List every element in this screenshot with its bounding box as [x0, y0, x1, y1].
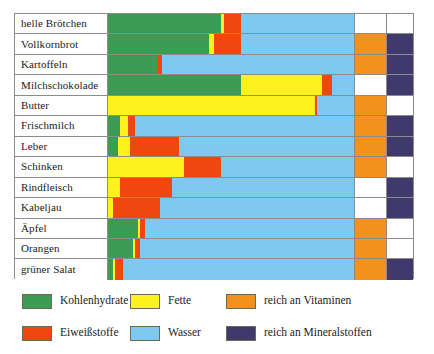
vitamin-flag-cell — [355, 55, 387, 74]
chart-row: Rindfleisch — [15, 178, 413, 198]
row-label: Butter — [15, 96, 108, 115]
bar-segment-kohlenhydrate — [108, 239, 133, 258]
row-label: Vollkornbrot — [15, 34, 108, 53]
legend-swatch-fette — [130, 294, 160, 309]
bar-segment-wasser — [241, 14, 354, 33]
bar-segment-wasser — [135, 116, 354, 135]
mineral-flag-cell — [387, 178, 413, 197]
row-label: Kabeljau — [15, 198, 108, 217]
row-label: Leber — [15, 137, 108, 156]
chart-row: Schinken — [15, 157, 413, 177]
stacked-bar — [108, 116, 355, 135]
bar-segment-fette — [108, 96, 315, 115]
mineral-flag-cell — [387, 55, 413, 74]
row-label: grüner Salat — [15, 259, 108, 279]
row-bars — [108, 239, 413, 258]
stacked-bar — [108, 137, 355, 156]
vitamin-flag-cell — [355, 239, 387, 258]
bar-segment-wasser — [241, 34, 354, 53]
vitamin-flag-cell — [355, 219, 387, 238]
row-bars — [108, 259, 413, 279]
vitamin-flag-cell — [355, 198, 387, 217]
bar-segment-fette — [241, 75, 322, 94]
legend-row-2: Eiweißstoffe Wasser reich an Mineralstof… — [14, 321, 420, 345]
legend-item-fette: Fette — [130, 289, 191, 313]
vitamin-flag-cell — [355, 96, 387, 115]
bar-segment-wasser — [160, 198, 354, 217]
bar-segment-kohlenhydrate — [108, 55, 157, 74]
bar-segment-fette — [118, 137, 130, 156]
chart-legend: Kohlenhydrate Fette reich an Vitaminen E… — [14, 289, 420, 349]
bar-segment-kohlenhydrate — [108, 14, 221, 33]
stacked-bar — [108, 14, 355, 33]
chart-plot-area: helle BrötchenVollkornbrotKartoffelnMilc… — [14, 13, 414, 279]
mineral-flag-cell — [387, 75, 413, 94]
bar-segment-eiweissstoffe — [224, 14, 241, 33]
mineral-flag-cell — [387, 198, 413, 217]
bar-segment-wasser — [145, 219, 354, 238]
bar-segment-wasser — [140, 239, 354, 258]
vitamin-flag-cell — [355, 14, 387, 33]
bar-segment-wasser — [123, 259, 354, 279]
bar-segment-wasser — [221, 157, 354, 176]
bar-segment-eiweissstoffe — [128, 116, 135, 135]
row-bars — [108, 137, 413, 156]
chart-row: Butter — [15, 96, 413, 116]
vitamin-flag-cell — [355, 178, 387, 197]
mineral-flag-cell — [387, 157, 413, 176]
stacked-bar — [108, 178, 355, 197]
legend-label-eiweissstoffe: Eiweißstoffe — [60, 327, 119, 339]
row-bars — [108, 219, 413, 238]
bar-segment-eiweissstoffe — [113, 198, 160, 217]
mineral-flag-cell — [387, 14, 413, 33]
bar-segment-eiweissstoffe — [115, 259, 122, 279]
vitamin-flag-cell — [355, 116, 387, 135]
stacked-bar — [108, 55, 355, 74]
row-label: Schinken — [15, 157, 108, 176]
chart-row: Kabeljau — [15, 198, 413, 218]
row-bars — [108, 96, 413, 115]
legend-swatch-kohlenhydrate — [22, 294, 52, 309]
row-bars — [108, 14, 413, 33]
vitamin-flag-cell — [355, 259, 387, 279]
row-bars — [108, 198, 413, 217]
bar-segment-kohlenhydrate — [108, 116, 120, 135]
row-label: Rindfleisch — [15, 178, 108, 197]
bar-segment-kohlenhydrate — [108, 34, 209, 53]
legend-item-eiweissstoffe: Eiweißstoffe — [22, 321, 119, 345]
bar-segment-eiweissstoffe — [120, 178, 172, 197]
row-label: Orangen — [15, 239, 108, 258]
mineral-flag-cell — [387, 259, 413, 279]
mineral-flag-cell — [387, 219, 413, 238]
bar-segment-wasser — [332, 75, 354, 94]
vitamin-flag-cell — [355, 157, 387, 176]
row-bars — [108, 34, 413, 53]
row-label: Milchschokolade — [15, 75, 108, 94]
vitamin-flag-cell — [355, 34, 387, 53]
legend-item-reich-an-vitaminen: reich an Vitaminen — [226, 289, 351, 313]
legend-label-reich-an-vitaminen: reich an Vitaminen — [264, 295, 351, 307]
bar-segment-eiweissstoffe — [322, 75, 332, 94]
chart-row: Orangen — [15, 239, 413, 259]
vitamin-flag-cell — [355, 137, 387, 156]
bar-segment-wasser — [179, 137, 354, 156]
chart-row: helle Brötchen — [15, 14, 413, 34]
stacked-bar — [108, 219, 355, 238]
chart-row: Vollkornbrot — [15, 34, 413, 54]
legend-label-kohlenhydrate: Kohlenhydrate — [60, 295, 128, 307]
stacked-bar — [108, 239, 355, 258]
row-label: helle Brötchen — [15, 14, 108, 33]
bar-segment-kohlenhydrate — [108, 75, 241, 94]
mineral-flag-cell — [387, 34, 413, 53]
bar-segment-fette — [108, 157, 184, 176]
legend-swatch-wasser — [130, 326, 160, 341]
chart-row: Äpfel — [15, 219, 413, 239]
row-bars — [108, 116, 413, 135]
legend-swatch-reich-an-mineralstoffen — [226, 326, 256, 341]
stacked-bar — [108, 157, 355, 176]
stacked-bar — [108, 34, 355, 53]
vitamin-flag-cell — [355, 75, 387, 94]
row-label: Äpfel — [15, 219, 108, 238]
row-bars — [108, 157, 413, 176]
nutrition-composition-chart: helle BrötchenVollkornbrotKartoffelnMilc… — [0, 0, 434, 354]
